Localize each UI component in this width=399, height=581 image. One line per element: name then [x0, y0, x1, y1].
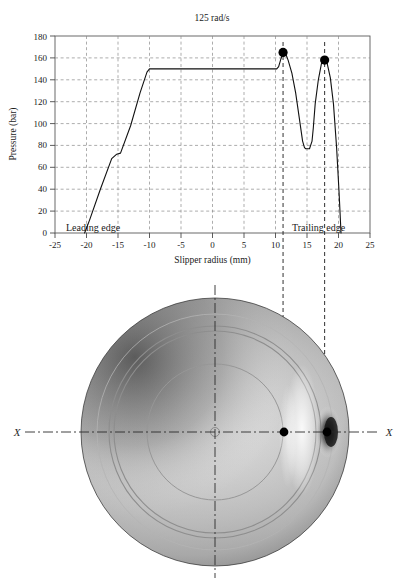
- y-tick-100: 100: [34, 119, 48, 129]
- y-tick-20: 20: [38, 206, 48, 216]
- trailing-edge-label: Trailing edge: [292, 222, 346, 233]
- x-tick-m10: -10: [144, 240, 156, 250]
- y-tick-40: 40: [38, 184, 48, 194]
- x-tick-25: 25: [366, 240, 376, 250]
- leading-edge-label: Leading edge: [66, 222, 121, 233]
- bright-crescent-secondary: [279, 384, 297, 488]
- x-tick-10: 10: [271, 240, 281, 250]
- figure-root: 125 rad/s: [0, 0, 399, 581]
- y-axis-title: Pressure (bar): [8, 107, 19, 160]
- x-tick-m15: -15: [112, 240, 124, 250]
- chart-title: 125 rad/s: [194, 13, 229, 23]
- y-tick-0: 0: [43, 228, 48, 238]
- x-tick-0: 0: [210, 240, 215, 250]
- y-tick-60: 60: [38, 162, 48, 172]
- x-tick-m5: -5: [177, 240, 185, 250]
- slipper-photo: X X: [13, 285, 394, 578]
- x-tick-15: 15: [303, 240, 313, 250]
- section-label-left: X: [13, 426, 22, 438]
- figure-svg: 125 rad/s: [0, 0, 399, 581]
- x-axis: -25 -20 -15 -10 -5 0 5 10 15 20 25: [49, 233, 375, 250]
- x-tick-20: 20: [334, 240, 344, 250]
- x-tick-m20: -20: [81, 240, 93, 250]
- y-tick-160: 160: [34, 53, 48, 63]
- section-label-right: X: [385, 426, 394, 438]
- y-tick-140: 140: [34, 75, 48, 85]
- y-tick-80: 80: [38, 140, 48, 150]
- y-tick-120: 120: [34, 97, 48, 107]
- x-tick-5: 5: [242, 240, 247, 250]
- photo-marker-outer: [323, 428, 332, 437]
- figure-panel: 125 rad/s: [0, 0, 399, 581]
- y-axis: 0 20 40 60 80 100 120 140 160 180: [34, 32, 56, 239]
- y-tick-180: 180: [34, 32, 48, 42]
- x-tick-m25: -25: [49, 240, 61, 250]
- peak-1-marker: [278, 48, 287, 57]
- peak-2-marker: [320, 55, 329, 64]
- photo-marker-inner: [280, 428, 289, 437]
- x-axis-title: Slipper radius (mm): [174, 255, 251, 266]
